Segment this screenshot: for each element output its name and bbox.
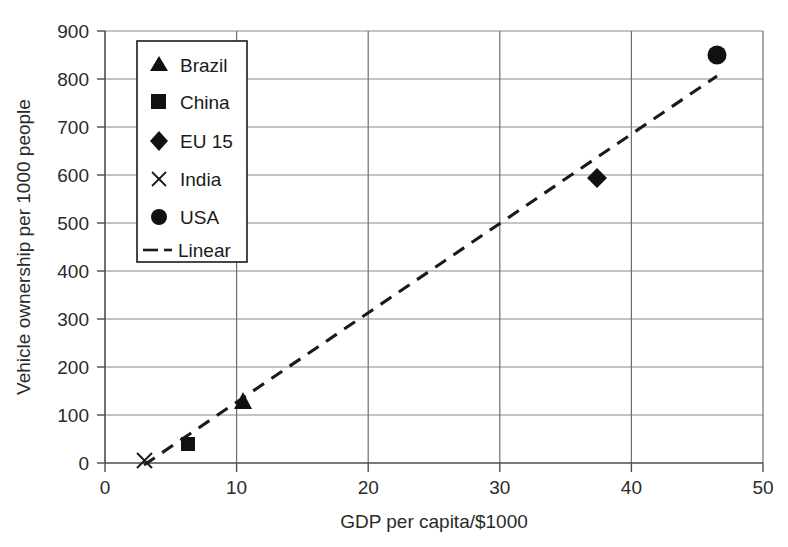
- y-tick-label-0: 0: [78, 453, 89, 474]
- legend-label-usa: USA: [180, 207, 219, 228]
- legend-circle-icon: [151, 209, 167, 225]
- x-tick-label-10: 10: [226, 477, 247, 498]
- x-axis-title: GDP per capita/$1000: [340, 511, 528, 532]
- y-tick-label-700: 700: [57, 117, 89, 138]
- x-tick-label-40: 40: [621, 477, 642, 498]
- chart-background: [0, 0, 788, 547]
- y-tick-label-300: 300: [57, 309, 89, 330]
- chart-figure: 900 800 700 600 500 400 300 200 100 0 0 …: [0, 0, 788, 547]
- legend-label-brazil: Brazil: [180, 55, 228, 76]
- y-axis-title: Vehicle ownership per 1000 people: [13, 99, 34, 395]
- y-tick-label-800: 800: [57, 69, 89, 90]
- scatter-chart: 900 800 700 600 500 400 300 200 100 0 0 …: [0, 0, 788, 547]
- legend-label-china: China: [180, 92, 230, 113]
- x-tick-label-50: 50: [752, 477, 773, 498]
- y-tick-label-500: 500: [57, 213, 89, 234]
- x-tick-label-0: 0: [100, 477, 111, 498]
- x-tick-label-30: 30: [489, 477, 510, 498]
- legend-label-india: India: [180, 169, 222, 190]
- y-tick-label-400: 400: [57, 261, 89, 282]
- y-tick-label-200: 200: [57, 357, 89, 378]
- data-point-usa: [708, 46, 727, 65]
- legend-label-linear: Linear: [178, 240, 231, 261]
- y-tick-label-100: 100: [57, 405, 89, 426]
- legend-square-icon: [151, 94, 166, 109]
- data-point-china: [181, 437, 195, 451]
- x-tick-label-20: 20: [358, 477, 379, 498]
- legend-label-eu15: EU 15: [180, 131, 233, 152]
- y-tick-label-900: 900: [57, 21, 89, 42]
- y-tick-label-600: 600: [57, 165, 89, 186]
- chart-legend: Brazil China EU 15 India USA Linear: [137, 41, 247, 262]
